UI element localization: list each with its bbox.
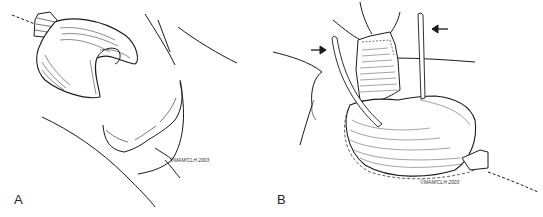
panel-a-illustration: [0, 0, 270, 217]
artist-signature: ©MAM/CLH 2003: [170, 157, 209, 163]
panel-b: ©MAM/CLH 2003 B: [270, 0, 543, 217]
artist-signature: ©MAM/CLH 2003: [420, 179, 459, 185]
panel-label-b: B: [277, 192, 286, 207]
panel-a: ©MAM/CLH 2003 A: [0, 0, 270, 217]
panel-label-a: A: [14, 192, 23, 207]
panel-b-illustration: [270, 0, 543, 217]
